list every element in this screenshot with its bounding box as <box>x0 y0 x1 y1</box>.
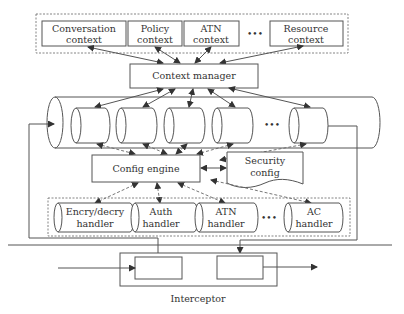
interceptor-outbound-box <box>217 256 263 279</box>
security-config: Security config <box>227 152 303 188</box>
config-engine-label: Config engine <box>112 163 180 174</box>
context-ellipsis: ••• <box>247 29 263 39</box>
atn-handler-line1: ATN <box>215 206 237 217</box>
security-config-line1: Security <box>245 155 286 166</box>
policy-context-line1: Policy <box>141 23 170 34</box>
atn-context-line2: context <box>193 34 229 45</box>
atn-handler: ATN handler <box>195 203 258 232</box>
architecture-diagram: Conversation context Policy context ATN … <box>0 0 404 314</box>
auth-handler-line1: Auth <box>149 206 173 217</box>
conversation-context: Conversation context <box>42 21 126 46</box>
conversation-context-line2: context <box>66 34 102 45</box>
encry-decry-handler-line2: handler <box>76 218 114 229</box>
context-group: Conversation context Policy context ATN … <box>36 14 348 53</box>
interceptor-label: Interceptor <box>171 293 226 304</box>
context-manager-links <box>88 46 303 63</box>
config-engine: Config engine <box>92 155 200 182</box>
resource-context-line2: context <box>288 34 324 45</box>
policy-context: Policy context <box>128 21 182 46</box>
security-config-line2: config <box>250 167 280 178</box>
resource-context-line1: Resource <box>284 23 329 34</box>
ac-handler: AC handler <box>284 203 343 232</box>
interceptor-inbound-box <box>135 257 182 279</box>
context-manager-label: Context manager <box>152 70 236 81</box>
encry-decry-handler: Encry/decry handler <box>54 203 134 232</box>
ac-handler-line2: handler <box>295 218 333 229</box>
handler-group: Encry/decry handler Auth handler ATN han… <box>48 198 350 236</box>
atn-handler-line2: handler <box>207 218 245 229</box>
atn-context: ATN context <box>184 21 239 46</box>
conversation-context-line1: Conversation <box>52 23 116 34</box>
auth-handler-line2: handler <box>142 218 180 229</box>
interceptor: Interceptor <box>58 253 317 304</box>
pipeline-stage-4 <box>212 108 253 143</box>
config-handler-links <box>95 180 311 203</box>
pipeline-cylinder: ••• <box>47 97 380 148</box>
pipeline-stage-1 <box>71 108 110 143</box>
ac-handler-line1: AC <box>306 206 321 217</box>
encry-decry-handler-line1: Encry/decry <box>66 206 125 217</box>
auth-handler: Auth handler <box>131 203 198 232</box>
context-manager: Context manager <box>130 64 258 88</box>
atn-context-line1: ATN <box>200 23 222 34</box>
handler-ellipsis: ••• <box>261 213 277 223</box>
policy-context-line2: context <box>137 34 173 45</box>
pipeline-ellipsis: ••• <box>264 120 280 130</box>
pipeline-stage-n <box>289 108 328 143</box>
resource-context: Resource context <box>270 21 343 46</box>
pipeline-stage-2 <box>116 108 157 143</box>
pipeline-stage-3 <box>164 108 205 143</box>
